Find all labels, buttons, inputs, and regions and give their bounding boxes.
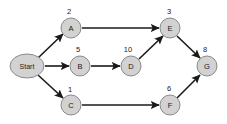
node-label-c: C [68,101,74,110]
node-start[interactable]: Start [10,54,44,78]
nodes-layer: StartA2B5C1D10E3F6G8 [10,7,217,116]
edge-start-to-c [38,75,63,98]
node-label-f: F [168,101,173,110]
node-b[interactable]: B5 [70,45,90,77]
node-label-g: G [204,62,210,71]
node-label-d: D [128,62,134,71]
node-d[interactable]: D10 [121,45,141,77]
node-weight-e: 3 [167,7,171,16]
edges-layer [38,28,200,105]
node-a[interactable]: A2 [61,7,81,39]
node-weight-g: 8 [203,45,207,54]
node-label-b: B [77,62,82,71]
edge-e-to-g [177,36,200,58]
node-weight-c: 1 [68,85,72,94]
node-label-start: Start [20,63,35,70]
edge-d-to-e [139,36,163,59]
node-weight-a: 2 [67,7,71,16]
node-g[interactable]: G8 [197,45,217,77]
edge-f-to-g [177,75,200,98]
node-c[interactable]: C1 [61,85,81,116]
node-weight-b: 5 [76,45,80,54]
graph-svg-surface: StartA2B5C1D10E3F6G8 [0,0,227,124]
node-label-a: A [68,24,73,33]
node-label-e: E [167,24,172,33]
edge-start-to-a [38,34,63,58]
node-weight-f: 6 [167,84,171,93]
node-weight-d: 10 [124,45,132,54]
node-f[interactable]: F6 [160,84,180,116]
dependency-graph-diagram: StartA2B5C1D10E3F6G8 [0,0,227,124]
node-e[interactable]: E3 [160,7,180,39]
